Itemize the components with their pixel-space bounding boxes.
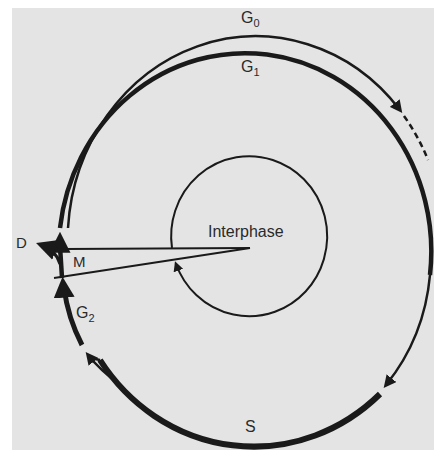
label-s: S: [245, 418, 256, 435]
label-d: D: [16, 234, 27, 251]
label-m: M: [73, 253, 86, 270]
label-interphase: Interphase: [208, 223, 284, 240]
g2-arrow: [63, 283, 64, 296]
cell-cycle-diagram: G0 G1 S G2 M D Interphase: [0, 0, 434, 465]
m-wedge-top: [64, 248, 250, 249]
